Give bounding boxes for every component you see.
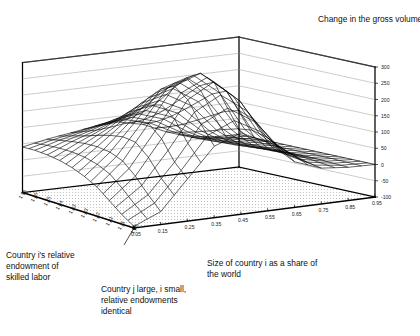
x-tick-0.45: 0.45 (238, 217, 248, 223)
x-tick-0.85: 0.85 (345, 204, 355, 210)
z-tick-0: 0 (381, 162, 384, 168)
x-axis-label: Size of country i as a share of the worl… (207, 258, 357, 280)
z-tick-100: 100 (381, 129, 390, 135)
x-tick-0.35: 0.35 (211, 221, 221, 227)
z-tick-50: 50 (381, 145, 387, 151)
z-tick-250: 250 (381, 80, 390, 86)
chart-title: Change in the gross volume of X trade (318, 14, 418, 25)
x-tick-0.25: 0.25 (185, 224, 195, 230)
x-tick-0.15: 0.15 (158, 228, 168, 234)
x-tick-0.55: 0.55 (265, 214, 275, 220)
z-tick--100: -100 (381, 194, 391, 200)
z-tick-150: 150 (381, 113, 390, 119)
surface-plot-figure: 0.050.150.250.350.450.550.650.750.850.95… (0, 0, 420, 336)
y-axis-label: Country i's relative endowment of skille… (6, 250, 126, 284)
z-tick-300: 300 (381, 64, 390, 70)
z-tick-200: 200 (381, 97, 390, 103)
z-tick--50: -50 (381, 178, 388, 184)
x-tick-0.75: 0.75 (318, 207, 328, 213)
x-tick-0.95: 0.95 (372, 200, 382, 206)
x-tick-0.65: 0.65 (292, 211, 302, 217)
origin-annotation-label: Country j large, i small, relative endow… (101, 284, 231, 318)
